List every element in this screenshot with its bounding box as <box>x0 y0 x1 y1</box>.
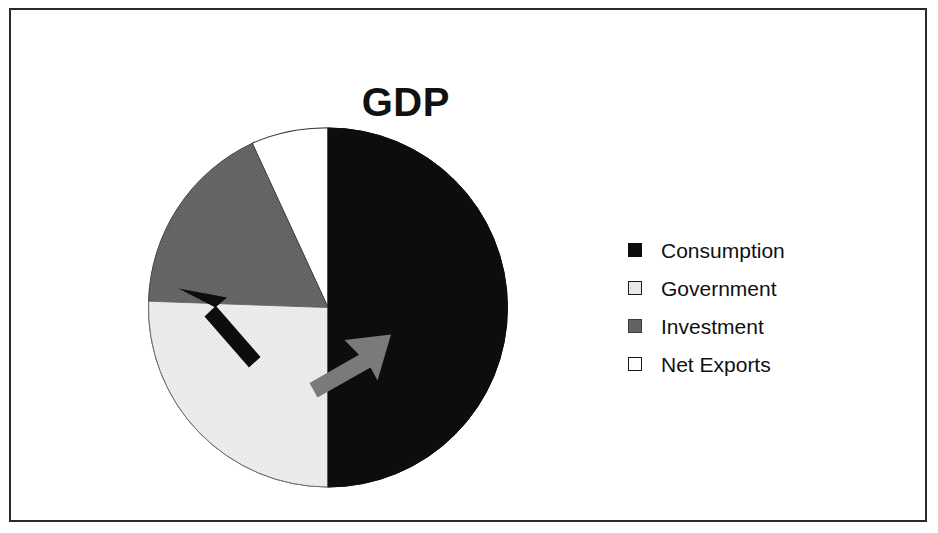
pie-slice-consumption[interactable] <box>328 128 507 487</box>
chart-legend: Consumption Government Investment Net Ex… <box>628 231 888 383</box>
chart-title-text: GDP <box>362 80 450 124</box>
chart-area: GDP <box>0 0 938 533</box>
legend-swatch-consumption <box>628 243 642 257</box>
legend-label-investment: Investment <box>661 316 764 337</box>
legend-label-consumption: Consumption <box>661 240 785 261</box>
legend-item-investment[interactable]: Investment <box>628 307 888 345</box>
legend-item-net-exports[interactable]: Net Exports <box>628 345 888 383</box>
legend-swatch-government <box>628 281 642 295</box>
legend-swatch-investment <box>628 319 642 333</box>
legend-label-government: Government <box>661 278 777 299</box>
pie-slice-government[interactable] <box>148 301 328 487</box>
pie-chart-svg <box>148 127 508 488</box>
legend-item-government[interactable]: Government <box>628 269 888 307</box>
legend-swatch-net-exports <box>628 357 642 371</box>
legend-item-consumption[interactable]: Consumption <box>628 231 888 269</box>
pie-chart <box>148 127 508 488</box>
slide-canvas: GDP <box>0 0 938 533</box>
legend-label-net-exports: Net Exports <box>661 354 771 375</box>
